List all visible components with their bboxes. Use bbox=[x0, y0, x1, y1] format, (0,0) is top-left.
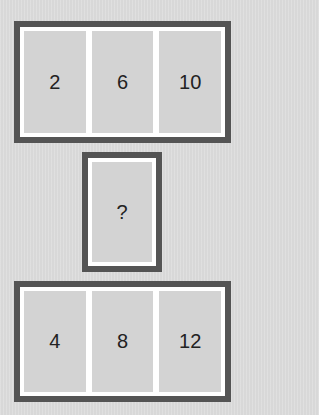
unknown-cell: ? bbox=[92, 162, 152, 262]
middle-frame: ? bbox=[82, 152, 162, 272]
top-cell-2: 6 bbox=[92, 31, 154, 133]
bottom-row-frame: 4 8 12 bbox=[14, 281, 231, 402]
bottom-cell-2: 8 bbox=[92, 291, 154, 392]
bottom-cell-1: 4 bbox=[24, 291, 86, 392]
top-cell-1: 2 bbox=[24, 31, 86, 133]
top-row-frame: 2 6 10 bbox=[14, 21, 231, 143]
top-cell-3: 10 bbox=[159, 31, 221, 133]
bottom-cell-3: 12 bbox=[159, 291, 221, 392]
